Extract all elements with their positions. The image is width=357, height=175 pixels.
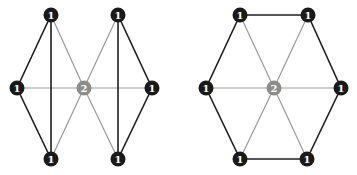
node-label: 1 xyxy=(48,10,55,21)
edge-outer-r-tr xyxy=(118,15,152,88)
graph-diagrams-canvas: 1112111 1112111 xyxy=(0,0,357,175)
edge-spoke-c-tr xyxy=(84,15,118,88)
edge-spoke-c-bl xyxy=(240,88,274,159)
node-label: 2 xyxy=(271,83,278,94)
outer-node-tl: 1 xyxy=(233,8,248,23)
outer-node-bl: 1 xyxy=(233,152,248,167)
edge-outer-l-bl xyxy=(17,88,51,159)
center-node-c: 2 xyxy=(267,81,282,96)
node-label: 2 xyxy=(81,83,88,94)
edge-spoke-c-tr xyxy=(274,15,308,88)
edge-spoke-c-tl xyxy=(240,15,274,88)
outer-node-br: 1 xyxy=(111,152,126,167)
outer-node-l: 1 xyxy=(10,81,25,96)
outer-node-r: 1 xyxy=(145,81,160,96)
bowtie-graph: 1112111 xyxy=(10,8,160,167)
hexagon-wheel-graph: 1112111 xyxy=(199,8,349,167)
outer-node-tr: 1 xyxy=(111,8,126,23)
outer-node-tr: 1 xyxy=(301,8,316,23)
edge-spoke-c-bl xyxy=(51,88,84,159)
center-node-c: 2 xyxy=(77,81,92,96)
edge-spoke-c-tl xyxy=(51,15,84,88)
node-label: 1 xyxy=(48,154,55,165)
node-label: 1 xyxy=(304,154,311,165)
edge-outer-r-br xyxy=(118,88,152,159)
node-label: 1 xyxy=(149,83,156,94)
outer-node-bl: 1 xyxy=(44,152,59,167)
outer-node-br: 1 xyxy=(300,152,315,167)
node-label: 1 xyxy=(115,10,122,21)
outer-node-tl: 1 xyxy=(44,8,59,23)
node-label: 1 xyxy=(237,10,244,21)
node-label: 1 xyxy=(203,83,210,94)
node-label: 1 xyxy=(115,154,122,165)
edge-spoke-c-br xyxy=(274,88,307,159)
node-label: 1 xyxy=(237,154,244,165)
edge-outer-r-br xyxy=(307,88,341,159)
node-label: 1 xyxy=(305,10,312,21)
edge-outer-l-tl xyxy=(17,15,51,88)
outer-node-l: 1 xyxy=(199,81,214,96)
edge-spoke-c-br xyxy=(84,88,118,159)
edge-outer-tr-r xyxy=(308,15,341,88)
edge-outer-l-tl xyxy=(206,15,240,88)
outer-node-r: 1 xyxy=(334,81,349,96)
node-label: 1 xyxy=(338,83,345,94)
node-label: 1 xyxy=(14,83,21,94)
edge-outer-bl-l xyxy=(206,88,240,159)
